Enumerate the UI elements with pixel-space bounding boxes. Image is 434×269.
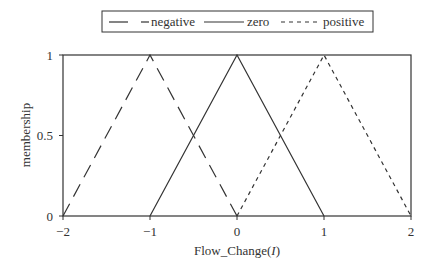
x-tick-0: 0 <box>234 224 241 239</box>
plot-frame <box>63 55 411 216</box>
x-tick--1: −1 <box>143 224 157 239</box>
x-axis-label: Flow_Change(I) <box>194 243 280 258</box>
y-tick-1: 1 <box>47 48 54 63</box>
y-tick-0.5: 0.5 <box>37 128 53 143</box>
membership-chart: negative zero positive 1 0.5 0 membershi… <box>0 0 434 269</box>
y-axis-label: membership <box>18 103 33 167</box>
series-zero <box>150 55 324 216</box>
legend-positive-label: positive <box>323 14 364 29</box>
series-positive <box>237 55 411 216</box>
x-tick--2: −2 <box>56 224 70 239</box>
x-axis <box>63 216 411 220</box>
x-tick-2: 2 <box>408 224 415 239</box>
legend-negative-label: negative <box>151 14 195 29</box>
x-tick-1: 1 <box>321 224 328 239</box>
y-tick-0: 0 <box>47 209 54 224</box>
legend: negative zero positive <box>102 11 373 32</box>
series-negative <box>63 55 237 216</box>
legend-zero-label: zero <box>247 14 269 29</box>
